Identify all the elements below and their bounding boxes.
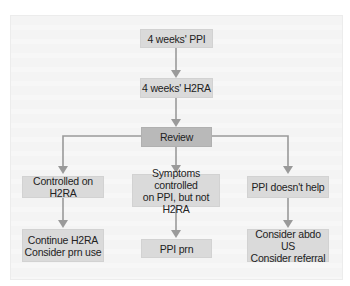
- node-label: Controlled on H2RA: [23, 175, 103, 199]
- node-label: 4 weeks' H2RA: [142, 82, 211, 94]
- node-label: Review: [160, 131, 193, 143]
- node-4-weeks-h2ra: 4 weeks' H2RA: [141, 79, 212, 97]
- arrowhead-icon: [171, 70, 181, 78]
- node-label: PPI doesn't help: [252, 181, 325, 193]
- node-label: PPI prn: [160, 243, 194, 255]
- node-label-line-1: Consider abdo US: [248, 228, 328, 252]
- arrowhead-icon: [283, 166, 293, 174]
- node-review: Review: [142, 128, 211, 146]
- node-label-line-1: Continue H2RA: [28, 234, 98, 246]
- node-symptoms-controlled-on-ppi: Symptoms controlled on PPI, but not H2RA: [133, 175, 219, 206]
- node-label: 4 weeks' PPI: [148, 33, 206, 45]
- node-ppi-doesnt-help: PPI doesn't help: [248, 177, 328, 197]
- node-label-line-2: Consider referral: [251, 252, 326, 264]
- node-consider-abdo-us: Consider abdo US Consider referral: [248, 230, 328, 261]
- arrowhead-icon: [58, 166, 68, 174]
- arrowhead-icon: [171, 230, 181, 238]
- node-label-line-2: Consider prn use: [25, 246, 102, 258]
- node-4-weeks-ppi: 4 weeks' PPI: [141, 30, 212, 47]
- node-label-line-1: Symptoms controlled: [133, 167, 219, 191]
- arrowhead-icon: [58, 220, 68, 228]
- node-ppi-prn: PPI prn: [142, 240, 211, 257]
- arrowhead-icon: [171, 119, 181, 127]
- node-label-line-2: on PPI, but not H2RA: [133, 191, 219, 215]
- arrow-review-to-left: [63, 136, 142, 168]
- node-continue-h2ra: Continue H2RA Consider prn use: [23, 230, 103, 261]
- arrow-review-to-right: [211, 136, 288, 168]
- node-controlled-on-h2ra: Controlled on H2RA: [23, 177, 103, 197]
